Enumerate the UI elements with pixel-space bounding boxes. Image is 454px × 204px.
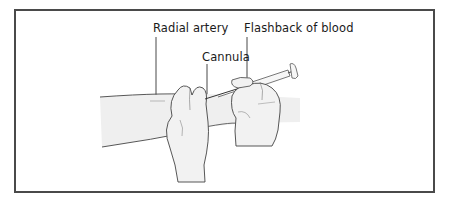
right-hand [232, 83, 281, 146]
left-hand [166, 86, 208, 182]
label-flashback-of-blood: Flashback of blood [244, 21, 354, 35]
syringe-plunger [290, 64, 298, 79]
right-thumb [232, 77, 253, 88]
label-cannula: Cannula [202, 50, 250, 64]
label-radial-artery: Radial artery [153, 21, 228, 35]
